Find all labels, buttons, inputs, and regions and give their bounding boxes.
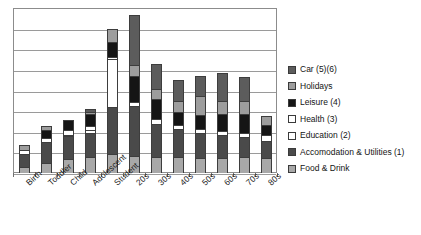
legend-item[interactable]: Car (5)(6) — [288, 62, 420, 77]
legend-swatch-icon — [288, 82, 296, 90]
legend-swatch-icon — [288, 99, 296, 107]
legend-swatch-icon — [288, 132, 296, 140]
x-axis-label-80s: 80s — [266, 171, 283, 188]
legend-swatch-icon — [288, 165, 296, 173]
x-axis-label-70s: 70s — [244, 171, 261, 188]
x-axis-label-birth: Birth — [24, 168, 44, 187]
stacked-bar-chart: BirthToddlerChildAdolescentStudent20s30s… — [0, 0, 421, 235]
legend-item[interactable]: Health (3) — [288, 112, 420, 127]
legend-label: Education (2) — [300, 131, 351, 140]
legend-item[interactable]: Education (2) — [288, 128, 420, 143]
x-axis-label-40s: 40s — [178, 171, 195, 188]
legend-swatch-icon — [288, 115, 296, 123]
x-axis-label-20s: 20s — [134, 171, 151, 188]
legend-item[interactable]: Holidays — [288, 79, 420, 94]
legend-swatch-icon — [288, 66, 296, 74]
legend-label: Accomodation & Utilities (1) — [300, 148, 404, 157]
x-axis-label-toddler: Toddler — [46, 161, 73, 187]
legend-label: Leisure (4) — [300, 98, 341, 107]
x-axis-label-30s: 30s — [156, 171, 173, 188]
x-tick — [13, 173, 14, 177]
x-axis-label-50s: 50s — [200, 171, 217, 188]
legend-label: Health (3) — [300, 115, 337, 124]
legend-item[interactable]: Accomodation & Utilities (1) — [288, 145, 420, 160]
legend-item[interactable]: Leisure (4) — [288, 95, 420, 110]
x-axis-label-60s: 60s — [222, 171, 239, 188]
legend-swatch-icon — [288, 148, 296, 156]
chart-legend: Car (5)(6)HolidaysLeisure (4)Health (3)E… — [288, 62, 420, 178]
legend-label: Food & Drink — [300, 164, 350, 173]
legend-label: Car (5)(6) — [300, 65, 337, 74]
legend-label: Holidays — [300, 82, 333, 91]
legend-item[interactable]: Food & Drink — [288, 161, 420, 176]
